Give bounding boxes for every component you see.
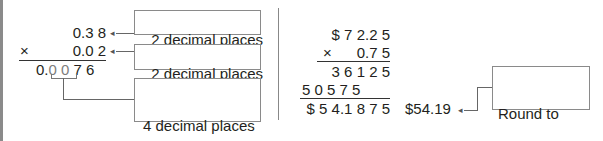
rounded-result: $54.19 xyxy=(405,100,451,118)
product-prefix: 0. xyxy=(36,61,49,78)
left-multiplicand: 0.3 8 xyxy=(66,24,106,42)
right-product: $ 5 4.1 8 7 5 xyxy=(300,100,390,118)
round-note-line1: Round to xyxy=(498,105,584,123)
multiply-line xyxy=(317,61,390,62)
arrow-left-icon: ◂ xyxy=(110,47,115,56)
connector-line xyxy=(477,87,492,88)
product-note-box: 4 decimal places Write 2 zeros. xyxy=(134,78,261,122)
left-border xyxy=(0,0,3,141)
connector-line xyxy=(63,99,134,100)
left-multiplier: 0.0 2 xyxy=(66,42,106,60)
connector-line xyxy=(464,110,477,111)
times-sign: × xyxy=(20,42,29,60)
right-multiplier: 0.7 5 xyxy=(330,44,390,62)
connector-line xyxy=(116,51,134,52)
connector-line xyxy=(477,87,478,111)
product-note-line1: 4 decimal places xyxy=(143,117,252,135)
connector-line xyxy=(116,33,134,34)
partial-product-1: 3 6 1 2 5 xyxy=(300,63,390,81)
divider xyxy=(278,8,279,120)
multiplier-note-box: 2 decimal places xyxy=(134,44,261,70)
right-multiplicand: $ 7 2.2 5 xyxy=(300,26,390,44)
multiplicand-note-box: 2 decimal places xyxy=(134,10,261,35)
connector-line xyxy=(63,78,64,99)
arrow-left-icon: ◂ xyxy=(458,106,463,115)
sum-line xyxy=(300,98,390,99)
round-note-box: Round to nearest cent. xyxy=(492,66,590,110)
zeros-bracket xyxy=(51,74,77,79)
partial-product-2: 5 0 5 7 5 xyxy=(302,81,360,99)
arrow-left-icon: ◂ xyxy=(110,29,115,38)
